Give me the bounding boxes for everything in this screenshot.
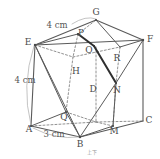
vertex-label-D: D (89, 85, 96, 94)
vertex-dot-F (142, 39, 144, 41)
vertex-label-M: M (109, 127, 118, 136)
vertex-label-R: R (114, 54, 121, 63)
geometry-figure: G E F P O R H D N Q C A M B 4 cm 4 cm 3 … (0, 0, 160, 159)
vertex-dots-group (30, 19, 144, 138)
vertex-label-B: B (77, 140, 84, 149)
vertex-dot-G (95, 19, 97, 21)
dimension-label-bottom: 3 cm (44, 130, 65, 139)
vertex-label-Q: Q (60, 113, 67, 122)
vertex-label-N: N (113, 86, 121, 95)
segment-B-M (80, 126, 113, 137)
vertex-label-O: O (85, 46, 92, 55)
vertex-label-P: P (78, 29, 84, 38)
vertex-label-G: G (92, 8, 99, 17)
vertex-label-H: H (72, 67, 80, 76)
dimension-label-left: 4 cm (15, 76, 36, 85)
edge-D-C-dashed (96, 121, 143, 122)
interior-segments-group (31, 20, 143, 137)
watermark-text: 上下 (87, 150, 97, 155)
segment-E-B (35, 45, 80, 137)
vertex-label-E: E (25, 38, 32, 47)
edge-G-F (96, 20, 143, 40)
vertex-label-A: A (26, 125, 33, 134)
vertex-label-C: C (146, 116, 153, 125)
dimension-label-top: 4 cm (47, 21, 68, 30)
edge-E-H-dashed (35, 45, 73, 57)
edge-E-A (31, 45, 35, 126)
vertex-dot-E (34, 44, 36, 46)
segment-G-R (96, 20, 120, 47)
vertex-label-F: F (147, 35, 153, 44)
